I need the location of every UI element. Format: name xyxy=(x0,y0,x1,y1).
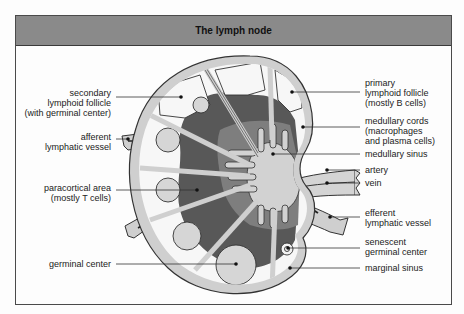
label-marginal-sinus: marginal sinus xyxy=(365,263,423,273)
label-paracortical-area: paracortical area (mostly T cells) xyxy=(44,183,111,203)
label-artery: artery xyxy=(365,165,388,175)
label-medullary-cords: medullary cords (macrophages and plasma … xyxy=(365,116,435,146)
label-germinal-center: germinal center xyxy=(49,259,111,269)
label-senescent-germinal-center: senescent germinal center xyxy=(365,237,427,257)
label-vein: vein xyxy=(365,178,382,188)
label-medullary-sinus: medullary sinus xyxy=(365,149,428,159)
label-efferent-lymphatic-vessel: efferent lymphatic vessel xyxy=(365,208,431,228)
label-secondary-lymphoid-follicle: secondary lymphoid follicle (with germin… xyxy=(24,88,111,118)
label-primary-lymphoid-follicle: primary lymphoid follicle (mostly B cell… xyxy=(365,78,429,108)
label-afferent-lymphatic-vessel: afferent lymphatic vessel xyxy=(45,132,111,152)
